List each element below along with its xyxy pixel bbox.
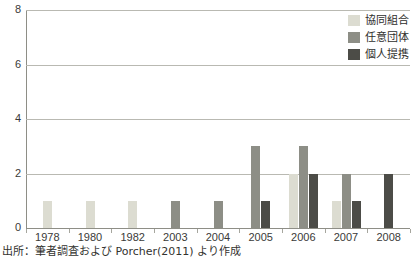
- x-tick-label-1978: 1978: [26, 231, 69, 244]
- gridline-6: [26, 65, 410, 66]
- x-tick-label-2004: 2004: [197, 231, 240, 244]
- y-tick-label-6: 6: [0, 59, 21, 70]
- bar-coop-1978: [43, 201, 52, 228]
- legend-label-coop: 協同組合: [365, 15, 409, 27]
- individual-swatch-icon: [348, 49, 360, 60]
- y-tick-label-2: 2: [0, 168, 21, 179]
- bar-voluntary-2003: [171, 201, 180, 228]
- x-tick-label-2005: 2005: [239, 231, 282, 244]
- bar-voluntary-2004: [214, 201, 223, 228]
- bar-individual-2006: [309, 174, 318, 229]
- legend-item-individual: 個人提携: [348, 47, 416, 62]
- chart-legend: 協同組合 任意団体 個人提携: [348, 13, 416, 64]
- y-tick-label-4: 4: [0, 113, 21, 124]
- legend-item-coop: 協同組合: [348, 13, 416, 28]
- x-tick-label-2006: 2006: [282, 231, 325, 244]
- bar-individual-2008: [384, 174, 393, 229]
- legend-label-individual: 個人提携: [365, 49, 409, 61]
- bar-voluntary-2006: [299, 146, 308, 228]
- x-tick-mark-end: [410, 229, 411, 233]
- y-tick-label-8: 8: [0, 4, 21, 15]
- bar-individual-2007: [352, 201, 361, 228]
- y-tick-label-0: 0: [0, 222, 21, 233]
- gridline-8: [26, 10, 410, 11]
- legend-label-voluntary: 任意団体: [365, 32, 409, 44]
- gridline-0: [26, 228, 410, 229]
- bar-coop-2006: [289, 174, 298, 229]
- x-axis-tick-labels: 197819801982200320042005200620072008: [26, 231, 410, 245]
- gridline-2: [26, 174, 410, 175]
- coop-swatch-icon: [348, 15, 360, 26]
- x-tick-label-2008: 2008: [367, 231, 410, 244]
- bar-chart-figure: 02468 1978198019822003200420052006200720…: [0, 0, 417, 261]
- bar-individual-2005: [261, 201, 270, 228]
- bar-voluntary-2007: [342, 174, 351, 229]
- x-tick-label-2007: 2007: [325, 231, 368, 244]
- legend-item-voluntary: 任意団体: [348, 30, 416, 45]
- x-tick-label-1982: 1982: [111, 231, 154, 244]
- bar-voluntary-2005: [251, 146, 260, 228]
- bar-coop-1980: [86, 201, 95, 228]
- bar-coop-2007: [332, 201, 341, 228]
- x-tick-label-1980: 1980: [69, 231, 112, 244]
- x-tick-label-2003: 2003: [154, 231, 197, 244]
- source-note: 出所：筆者調査および Porcher(2011) より作成: [2, 245, 241, 258]
- voluntary-swatch-icon: [348, 32, 360, 43]
- bar-coop-1982: [128, 201, 137, 228]
- gridline-4: [26, 119, 410, 120]
